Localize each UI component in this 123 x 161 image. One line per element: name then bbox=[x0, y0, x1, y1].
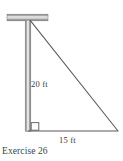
horizontal-dimension-label: 15 ft bbox=[59, 135, 76, 145]
right-angle-mark-icon bbox=[31, 123, 39, 131]
exercise-figure: 20 ft 15 ft Exercise 26 bbox=[0, 0, 123, 161]
figure-caption: Exercise 26 bbox=[2, 146, 48, 156]
vertical-dimension-label: 20 ft bbox=[31, 79, 48, 89]
vertical-pole-icon bbox=[25, 20, 31, 131]
hypotenuse-line bbox=[30, 20, 118, 131]
ceiling-beam-icon bbox=[7, 14, 48, 21]
